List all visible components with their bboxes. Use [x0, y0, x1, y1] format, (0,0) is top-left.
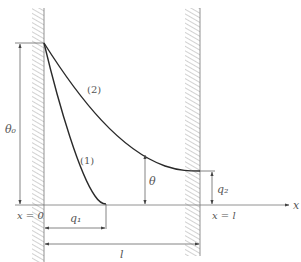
diagram-canvas: θ₀ θ (1) (2) q₁ q₂ l x x = 0 x = l	[0, 0, 301, 262]
x-start-label: x = 0	[17, 210, 44, 221]
theta0-label: θ₀	[5, 123, 17, 136]
curve-1-label: (1)	[80, 155, 94, 166]
x-axis-label: x	[293, 199, 300, 212]
right-wall	[185, 8, 200, 256]
length-label: l	[120, 248, 124, 261]
left-wall	[32, 8, 44, 262]
curve-2	[44, 43, 200, 171]
theta-label: θ	[149, 175, 156, 188]
curve-2-label: (2)	[87, 84, 101, 95]
curve-1	[44, 43, 106, 204]
q2-label: q₂	[217, 183, 228, 196]
x-end-label: x = l	[212, 210, 236, 221]
q1-label: q₁	[70, 212, 81, 225]
